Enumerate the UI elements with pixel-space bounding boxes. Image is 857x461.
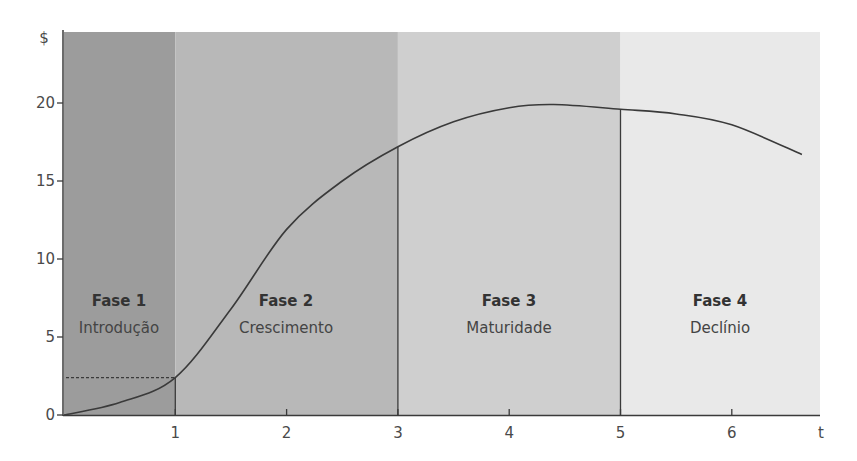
y-tick-label: 5	[45, 328, 55, 346]
y-axis-label: $	[39, 29, 49, 47]
x-tick-label: 5	[616, 424, 626, 442]
phase-title: Fase 2	[259, 292, 313, 310]
phase-band-2	[175, 32, 398, 415]
phase-subtitle: Crescimento	[239, 319, 333, 337]
phase-title: Fase 1	[92, 292, 146, 310]
phase-bands	[64, 32, 820, 415]
x-axis-label: t	[818, 424, 824, 442]
product-life-cycle-chart: 05101520 123456 $ t Fase 1IntroduçãoFase…	[0, 0, 857, 461]
phase-title: Fase 3	[482, 292, 536, 310]
phase-title: Fase 4	[693, 292, 747, 310]
y-tick-label: 15	[36, 172, 55, 190]
phase-band-3	[398, 32, 621, 415]
x-tick-label: 6	[727, 424, 737, 442]
phase-subtitle: Declínio	[690, 319, 750, 337]
phase-subtitle: Maturidade	[466, 319, 551, 337]
y-tick-label: 10	[36, 250, 55, 268]
y-tick-label: 0	[45, 406, 55, 424]
x-tick-label: 2	[282, 424, 292, 442]
x-tick-label: 1	[171, 424, 181, 442]
phase-subtitle: Introdução	[79, 319, 159, 337]
x-tick-label: 3	[393, 424, 403, 442]
x-tick-label: 4	[504, 424, 514, 442]
phase-band-4	[621, 32, 821, 415]
y-tick-label: 20	[36, 94, 55, 112]
phase-band-1	[64, 32, 175, 415]
y-ticks: 05101520	[36, 94, 63, 424]
